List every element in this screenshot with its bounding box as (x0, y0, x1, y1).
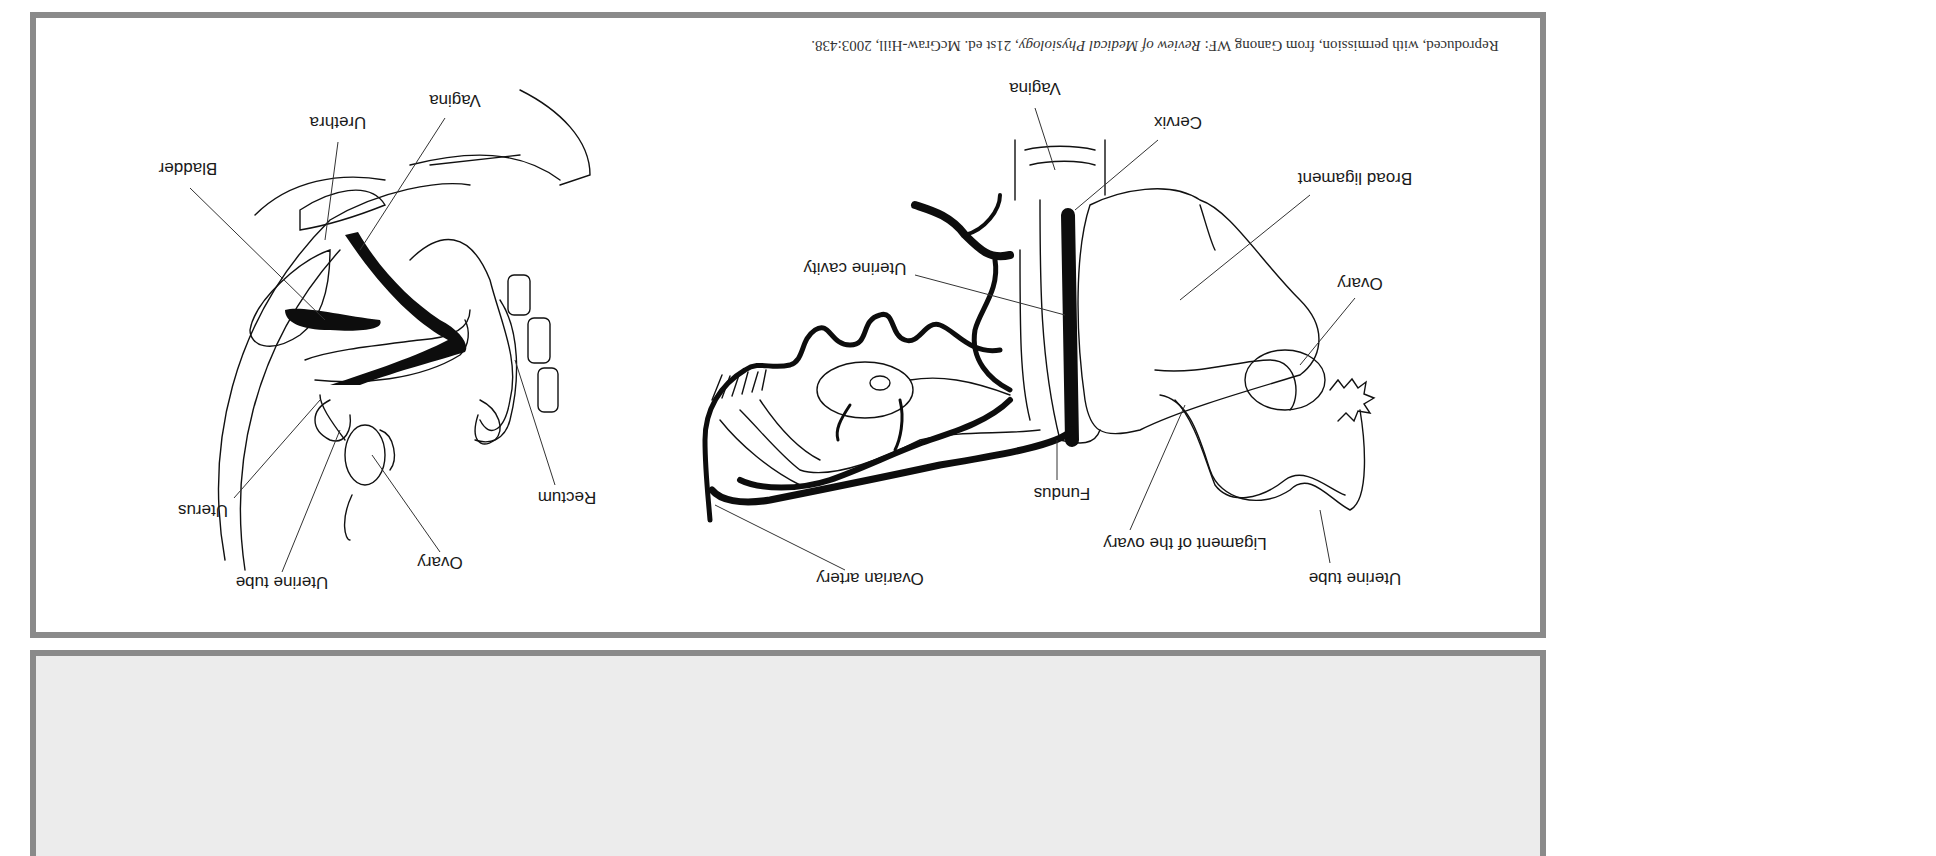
label-vagina-right: Vagina (1009, 80, 1061, 97)
credit-prefix: Reproduced, with permission, from Ganong… (1201, 38, 1499, 54)
label-ligament-of-ovary: Ligament of the ovary (1103, 535, 1266, 552)
left-diagram-sagittal (219, 90, 590, 570)
right-diagram-posterior (712, 140, 1374, 510)
left-diagram-dark-lumens (285, 232, 466, 385)
label-uterine-tube-left: Uterine tube (236, 574, 329, 591)
label-vagina-left: Vagina (429, 92, 481, 109)
label-cervix: Cervix (1154, 114, 1202, 131)
label-uterine-tube-right: Uterine tube (1309, 570, 1402, 587)
credit-line: Reproduced, with permission, from Ganong… (811, 37, 1499, 54)
label-ovarian-artery: Ovarian artery (816, 570, 924, 587)
credit-suffix: , 21st ed. McGraw-Hill, 2003:438. (811, 38, 1018, 54)
label-broad-ligament: Broad ligament (1298, 170, 1412, 187)
label-rectum: Rectum (538, 489, 597, 506)
right-diagram-arteries (705, 195, 1072, 520)
label-bladder: Bladder (159, 160, 218, 177)
label-ovary-left: Ovary (417, 554, 462, 571)
label-uterus: Uterus (178, 502, 228, 519)
label-fundus: Fundus (1034, 485, 1091, 502)
label-ovary-right: Ovary (1337, 275, 1382, 292)
label-uterine-cavity: Uterine cavity (804, 260, 907, 277)
credit-title: Review of Medical Physiology (1019, 38, 1201, 54)
label-urethra: Urethra (310, 114, 367, 131)
